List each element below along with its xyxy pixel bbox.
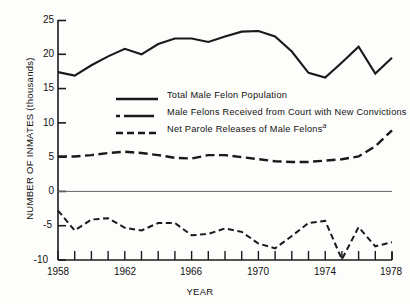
- xtick-label-1966: 1966: [171, 266, 211, 277]
- chart-figure: 25 20 15 10 5 0 -5 -10 1958 1962 1966 19…: [0, 0, 410, 304]
- legend-swatch-short-dash: [116, 124, 158, 134]
- legend-label-2-text: Net Parole Releases of Male Felons: [167, 125, 323, 135]
- xtick-label-1974: 1974: [305, 266, 345, 277]
- y-axis-title: NUMBER OF INMATES (thousands): [24, 29, 35, 249]
- x-axis-ticks: [58, 251, 392, 260]
- ytick-label-minus10: -10: [14, 254, 48, 265]
- legend-footnote-marker: a: [323, 122, 327, 129]
- x-axis-title: YEAR: [150, 286, 250, 297]
- legend-item-total-male-felon-population: Total Male Felon Population: [116, 86, 407, 103]
- legend-label-2: Net Parole Releases of Male Felonsa: [167, 122, 327, 134]
- xtick-label-1970: 1970: [238, 266, 278, 277]
- xtick-label-1978: 1978: [371, 266, 410, 277]
- legend-label-1: Male Felons Received from Court with New…: [167, 107, 407, 117]
- xtick-label-1962: 1962: [105, 266, 145, 277]
- ytick-label-25: 25: [20, 14, 54, 25]
- legend-swatch-solid: [116, 90, 158, 100]
- chart-plot-area: [0, 0, 410, 304]
- xtick-label-1958: 1958: [38, 266, 78, 277]
- series-line-total-male-felon-population: [58, 31, 392, 78]
- legend-item-net-parole-releases: Net Parole Releases of Male Felonsa: [116, 120, 407, 137]
- legend-label-0: Total Male Felon Population: [167, 90, 287, 100]
- legend-swatch-long-dash: [116, 107, 158, 117]
- legend-item-male-felons-received-from-court: Male Felons Received from Court with New…: [116, 103, 407, 120]
- chart-legend: Total Male Felon Population Male Felons …: [116, 86, 407, 137]
